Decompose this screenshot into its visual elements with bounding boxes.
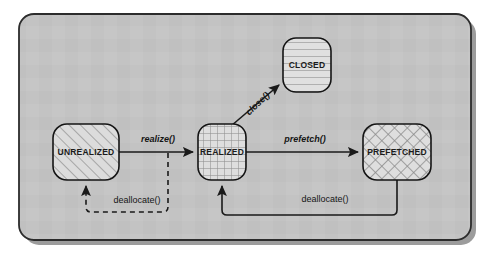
state-diagram: UNREALIZED REALIZED PREFETCHED CLOSED re… (0, 0, 497, 270)
edge-label-deallocate-unrealized: deallocate() (113, 195, 160, 205)
edge-label-realize: realize() (141, 134, 175, 144)
state-closed-label: CLOSED (289, 60, 326, 70)
state-realized-label: REALIZED (200, 147, 244, 157)
state-realized[interactable]: REALIZED (198, 124, 246, 180)
state-prefetched[interactable]: PREFETCHED (363, 124, 431, 180)
state-unrealized-label: UNREALIZED (58, 147, 115, 157)
edge-label-prefetch: prefetch() (283, 134, 326, 144)
state-closed[interactable]: CLOSED (283, 38, 331, 92)
state-unrealized[interactable]: UNREALIZED (53, 124, 119, 180)
edge-label-deallocate-realized: deallocate() (301, 194, 348, 204)
diagram-canvas: UNREALIZED REALIZED PREFETCHED CLOSED re… (0, 0, 497, 270)
state-prefetched-label: PREFETCHED (367, 147, 427, 157)
